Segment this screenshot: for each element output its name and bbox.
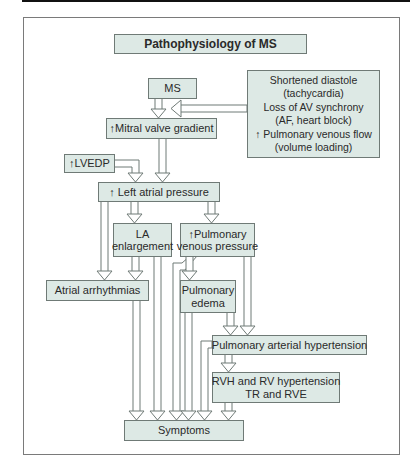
- node-atrial-arrhythmias-label: Atrial arrhythmias: [55, 284, 141, 297]
- arrow-pulmonary-edema-to-pah: [223, 312, 238, 335]
- arrow-mitral-to-lap: [155, 138, 170, 182]
- precipitant-line: (AF, heart block): [275, 114, 351, 128]
- diagram-title: Pathophysiology of MS: [114, 34, 307, 54]
- node-lap-label: ↑ Left atrial pressure: [109, 186, 209, 199]
- node-ms: MS: [148, 78, 197, 99]
- precipitant-line: Shortened diastole: [270, 74, 358, 88]
- arrow-la-to-symptoms: [150, 256, 165, 420]
- node-la-line: LA: [136, 228, 149, 241]
- node-ms-label: MS: [164, 82, 181, 95]
- precipitant-line: ↑ Pulmonary venous flow: [255, 128, 372, 142]
- arrow-lap-to-atrial-arrhythmias: [97, 201, 112, 280]
- node-rvh-line: TR and RVE: [245, 388, 307, 401]
- precipitant-line: Loss of AV synchrony: [263, 101, 363, 115]
- node-symptoms: Symptoms: [124, 420, 244, 441]
- node-rvh-line: RVH and RV hypertension: [212, 375, 341, 388]
- node-precipitants: Shortened diastole (tachycardia) Loss of…: [247, 70, 380, 158]
- arrow-rvh-to-symptoms: [221, 402, 236, 420]
- node-atrial-arrhythmias: Atrial arrhythmias: [46, 280, 149, 301]
- node-pah: Pulmonary arterial hypertension: [212, 335, 367, 355]
- node-symptoms-label: Symptoms: [158, 424, 210, 437]
- arrow-pulmonary-edema-to-symptoms: [181, 312, 196, 420]
- node-lvedp: ↑LVEDP: [64, 154, 115, 173]
- arrow-pvp-to-pah: [240, 256, 255, 335]
- precipitant-line: (volume loading): [275, 141, 353, 155]
- arrow-la-to-atrial-arrhythmias: [128, 256, 143, 280]
- node-la-line: enlargement: [112, 240, 173, 253]
- arrow-ms-to-mitral-gradient: [151, 98, 166, 118]
- arrow-pah-to-symptoms: [197, 341, 212, 420]
- node-pulmonary-edema: Pulmonary edema: [180, 280, 236, 313]
- precipitant-line: (tachycardia): [283, 87, 344, 101]
- diagram-title-text: Pathophysiology of MS: [144, 38, 277, 51]
- node-pvp-line: ↑Pulmonary: [188, 228, 246, 241]
- node-mitral-gradient-label: ↑Mitral valve gradient: [110, 122, 214, 135]
- arrow-lap-to-pvp: [204, 201, 219, 223]
- arrow-atrial-arrhythmias-to-symptoms: [129, 300, 144, 420]
- arrow-pah-to-rvh: [221, 354, 236, 372]
- node-pah-label: Pulmonary arterial hypertension: [212, 339, 367, 352]
- arrow-lvedp-to-lap: [114, 160, 143, 182]
- node-pvp-line: venous pressure: [177, 240, 258, 253]
- arrow-precipitants-to-ms: [171, 100, 247, 117]
- node-rvh: RVH and RV hypertension TR and RVE: [212, 372, 340, 403]
- node-left-atrial-pressure: ↑ Left atrial pressure: [98, 182, 220, 202]
- node-lvedp-label: ↑LVEDP: [69, 157, 110, 170]
- node-la-enlargement: LA enlargement: [113, 223, 172, 257]
- node-pulm-venous-pressure: ↑Pulmonary venous pressure: [180, 223, 255, 257]
- node-edema-line: edema: [191, 297, 225, 310]
- arrow-lap-to-la-enlargement: [127, 201, 142, 223]
- node-mitral-gradient: ↑Mitral valve gradient: [106, 118, 217, 139]
- node-edema-line: Pulmonary: [182, 284, 235, 297]
